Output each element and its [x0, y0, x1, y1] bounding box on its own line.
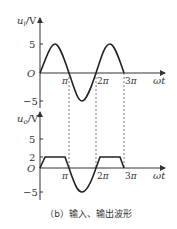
guide-lines [69, 73, 124, 168]
svg-text:2: 2 [29, 152, 35, 163]
svg-text:2π: 2π [97, 171, 110, 181]
svg-text:ωt: ωt [153, 170, 166, 181]
figure-caption: （b）输入、输出波形 [0, 207, 177, 220]
input-chart: ui/V 5 −5 O π 2π 3π ωt [17, 15, 166, 108]
svg-text:5: 5 [29, 134, 35, 145]
svg-text:3π: 3π [125, 76, 138, 86]
output-clipped-curve [40, 157, 124, 192]
svg-text:2π: 2π [97, 76, 110, 86]
y-axis-label: uo/V [17, 113, 39, 126]
svg-text:O: O [27, 68, 35, 79]
y-axis-label: ui/V [17, 15, 37, 28]
waveform-figure: ui/V 5 −5 O π 2π 3π ωt uo/V 5 2 −5 O π 2… [0, 0, 177, 229]
svg-text:ωt: ωt [153, 75, 166, 86]
output-chart: uo/V 5 2 −5 O π 2π 3π ωt [17, 112, 166, 200]
svg-text:π: π [61, 171, 69, 181]
svg-text:5: 5 [29, 39, 35, 50]
svg-text:−5: −5 [23, 187, 38, 198]
svg-text:π: π [61, 76, 69, 86]
svg-text:3π: 3π [125, 171, 138, 181]
svg-text:−5: −5 [23, 96, 38, 107]
svg-text:O: O [27, 163, 35, 174]
